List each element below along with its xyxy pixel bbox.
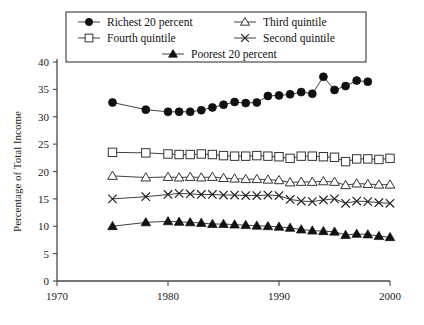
marker-filled-circle bbox=[231, 98, 239, 106]
marker-open-triangle bbox=[374, 180, 384, 188]
income-distribution-chart: 05101520253035401970198019902000Percenta… bbox=[0, 0, 424, 325]
series-fourth-quintile bbox=[108, 148, 394, 166]
y-tick-label: 0 bbox=[44, 275, 50, 287]
marker-filled-circle bbox=[275, 91, 283, 99]
marker-x-cross bbox=[341, 199, 349, 207]
marker-filled-triangle bbox=[363, 230, 373, 238]
marker-filled-triangle bbox=[352, 229, 362, 237]
series-poorest-20-percent bbox=[108, 217, 395, 241]
marker-filled-triangle bbox=[274, 222, 284, 230]
marker-filled-circle bbox=[353, 77, 361, 85]
legend-label: Richest 20 percent bbox=[107, 16, 193, 29]
marker-filled-circle bbox=[308, 90, 316, 98]
marker-open-square bbox=[319, 153, 327, 161]
x-tick-label: 1970 bbox=[46, 290, 69, 302]
marker-open-square bbox=[375, 155, 383, 163]
marker-open-square bbox=[219, 151, 227, 159]
marker-open-triangle bbox=[296, 177, 306, 185]
marker-filled-circle bbox=[220, 101, 228, 109]
legend: Richest 20 percentThird quintileFourth q… bbox=[66, 12, 366, 62]
marker-open-square bbox=[386, 154, 394, 162]
marker-open-square bbox=[330, 153, 338, 161]
marker-open-triangle bbox=[263, 175, 273, 183]
marker-filled-triangle bbox=[185, 218, 195, 226]
marker-open-triangle bbox=[274, 175, 284, 183]
marker-filled-circle bbox=[242, 99, 250, 107]
marker-open-square bbox=[297, 152, 305, 160]
legend-label: Poorest 20 percent bbox=[191, 48, 277, 61]
marker-open-triangle bbox=[174, 173, 184, 181]
y-tick-label: 15 bbox=[38, 193, 50, 205]
marker-filled-circle bbox=[331, 86, 339, 94]
series-second-quintile bbox=[108, 189, 394, 207]
marker-open-square bbox=[286, 154, 294, 162]
series-third-quintile bbox=[108, 171, 395, 189]
marker-filled-circle bbox=[286, 90, 294, 98]
marker-open-square bbox=[275, 153, 283, 161]
y-tick-label: 20 bbox=[38, 166, 50, 178]
marker-open-square bbox=[264, 152, 272, 160]
x-tick-label: 1990 bbox=[268, 290, 291, 302]
x-tick-label: 1980 bbox=[157, 290, 180, 302]
y-axis-title: Percentage of Total Income bbox=[11, 111, 23, 232]
marker-filled-circle bbox=[297, 88, 305, 96]
marker-open-triangle bbox=[241, 174, 251, 182]
marker-open-triangle bbox=[319, 177, 329, 185]
marker-open-square bbox=[341, 157, 349, 165]
legend-label: Fourth quintile bbox=[107, 32, 176, 45]
marker-open-square bbox=[208, 150, 216, 158]
series-line bbox=[113, 77, 368, 112]
marker-filled-triangle bbox=[219, 219, 229, 227]
chart-canvas: 05101520253035401970198019902000Percenta… bbox=[0, 0, 424, 325]
marker-filled-triangle bbox=[230, 220, 240, 228]
marker-filled-circle bbox=[142, 106, 150, 114]
marker-open-triangle bbox=[230, 174, 240, 182]
marker-filled-circle bbox=[164, 108, 172, 116]
series-richest-20-percent bbox=[109, 73, 372, 116]
marker-open-triangle bbox=[185, 172, 195, 180]
marker-open-square bbox=[230, 152, 238, 160]
marker-open-square bbox=[142, 149, 150, 157]
marker-open-triangle bbox=[141, 173, 151, 181]
marker-open-triangle bbox=[197, 173, 207, 181]
y-tick-label: 35 bbox=[38, 83, 50, 95]
marker-filled-triangle bbox=[319, 226, 329, 234]
series-line bbox=[113, 193, 391, 203]
marker-open-triangle bbox=[163, 172, 173, 180]
marker-filled-triangle bbox=[241, 220, 251, 228]
marker-open-square bbox=[186, 150, 194, 158]
marker-filled-circle bbox=[364, 78, 372, 86]
marker-open-triangle bbox=[330, 177, 340, 185]
marker-open-square bbox=[175, 150, 183, 158]
marker-open-square bbox=[242, 152, 250, 160]
legend-label: Third quintile bbox=[263, 16, 327, 29]
marker-open-square bbox=[197, 150, 205, 158]
marker-filled-triangle bbox=[197, 218, 207, 226]
marker-filled-circle bbox=[253, 99, 261, 107]
marker-open-triangle bbox=[208, 172, 218, 180]
marker-open-square bbox=[364, 155, 372, 163]
marker-filled-triangle bbox=[141, 218, 151, 226]
marker-filled-triangle bbox=[330, 227, 340, 235]
marker-open-square bbox=[164, 150, 172, 158]
marker-filled-circle bbox=[319, 73, 327, 81]
marker-open-square bbox=[108, 148, 116, 156]
marker-open-triangle bbox=[363, 179, 373, 187]
y-tick-label: 30 bbox=[38, 111, 50, 123]
y-tick-label: 10 bbox=[38, 220, 50, 232]
series-line bbox=[113, 176, 391, 185]
chart-axes bbox=[57, 59, 390, 281]
marker-open-square bbox=[353, 155, 361, 163]
y-tick-label: 25 bbox=[38, 138, 50, 150]
marker-filled-triangle bbox=[252, 221, 262, 229]
marker-open-triangle bbox=[108, 171, 118, 179]
marker-filled-triangle bbox=[163, 217, 173, 225]
marker-filled-circle bbox=[109, 99, 117, 107]
marker-filled-circle bbox=[186, 108, 194, 116]
legend-label: Second quintile bbox=[263, 32, 335, 45]
marker-filled-circle bbox=[175, 108, 183, 116]
marker-filled-circle bbox=[342, 82, 350, 90]
marker-open-triangle bbox=[308, 177, 318, 185]
marker-filled-circle bbox=[85, 18, 92, 25]
marker-open-square bbox=[308, 152, 316, 160]
